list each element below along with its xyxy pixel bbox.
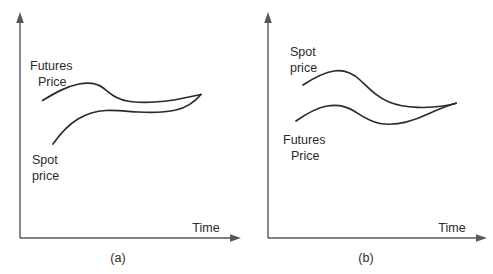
panel-b: Spot price Futures Price Time (b) <box>264 12 487 265</box>
panel-b-futures-label-line1: Futures <box>283 133 325 147</box>
panel-a-caption: (a) <box>110 251 125 265</box>
panel-b-futures-label: Futures Price <box>283 133 325 163</box>
panel-b-x-axis-label: Time <box>438 221 465 235</box>
panel-b-spot-label-line2: price <box>290 61 317 75</box>
panel-b-spot-price-curve <box>303 71 456 108</box>
panel-a-spot-label-line1: Spot <box>32 153 58 167</box>
panel-b-y-axis <box>264 12 272 238</box>
panel-a-futures-label-line1: Futures <box>30 59 72 73</box>
x-axis-arrowhead-icon <box>230 234 241 242</box>
y-axis-arrowhead-icon <box>264 12 272 23</box>
panel-a-futures-label-line2: Price <box>38 75 67 89</box>
panel-a-futures-label: Futures Price <box>30 59 72 89</box>
panel-b-x-axis <box>268 234 487 242</box>
x-axis-arrowhead-icon <box>476 234 487 242</box>
panel-a-spot-label: Spot price <box>32 153 59 183</box>
figure-canvas: Futures Price Spot price Time (a) <box>0 0 493 274</box>
panel-a: Futures Price Spot price Time (a) <box>16 12 241 265</box>
y-axis-arrowhead-icon <box>16 12 24 23</box>
panel-a-x-axis-label: Time <box>192 221 219 235</box>
figure-container: Futures Price Spot price Time (a) <box>0 0 493 274</box>
panel-b-spot-label-line1: Spot <box>290 45 316 59</box>
panel-b-caption: (b) <box>358 251 373 265</box>
panel-b-spot-label: Spot price <box>290 45 317 75</box>
panel-a-spot-price-curve <box>53 95 201 145</box>
panel-b-futures-label-line2: Price <box>291 149 320 163</box>
panel-a-y-axis <box>16 12 24 238</box>
panel-a-x-axis <box>20 234 241 242</box>
panel-a-spot-label-line2: price <box>32 169 59 183</box>
